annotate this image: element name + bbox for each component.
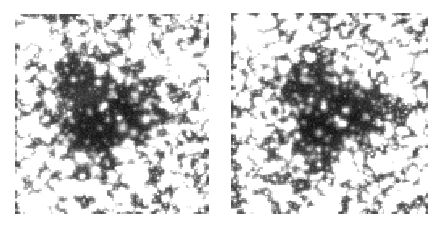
sky-image-panel-left (15, 14, 209, 214)
star-field-canvas-right (231, 13, 428, 214)
astronomy-figure (0, 0, 445, 228)
sky-image-panel-right (231, 13, 428, 214)
star-field-canvas-left (15, 14, 209, 214)
